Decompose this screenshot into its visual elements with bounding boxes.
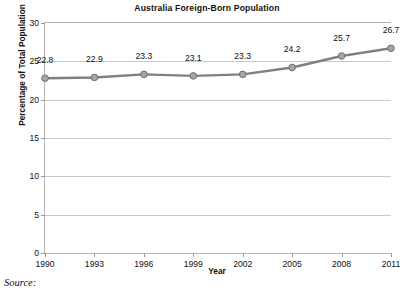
- x-axis-tick: [342, 253, 343, 257]
- page-title: Australia Foreign-Born Population: [0, 3, 414, 13]
- data-point-label: 26.7: [371, 25, 411, 35]
- x-axis-tick: [144, 253, 145, 257]
- data-point-marker: [42, 75, 49, 82]
- data-point-label: 23.3: [124, 51, 164, 61]
- data-point-label: 24.2: [272, 44, 312, 54]
- chart-figure: Australia Foreign-Born Population Percen…: [0, 0, 414, 296]
- y-axis-tick-label: 15: [29, 133, 39, 143]
- x-axis-tick: [292, 253, 293, 257]
- y-axis-tick-label: 5: [34, 210, 39, 220]
- data-point-marker: [239, 71, 246, 78]
- y-axis-tick-label: 0: [34, 248, 39, 258]
- plot-area: 051015202530 199019931996199920022005200…: [44, 22, 391, 254]
- data-point-marker: [338, 53, 345, 60]
- x-axis-tick: [45, 253, 46, 257]
- data-point-label: 22.9: [74, 54, 114, 64]
- data-point-label: 22.8: [25, 55, 65, 65]
- y-axis-tick-label: 30: [29, 18, 39, 28]
- data-point-marker: [289, 64, 296, 71]
- data-point-marker: [141, 71, 148, 78]
- data-point-marker: [388, 45, 395, 52]
- x-axis-title: Year: [44, 266, 390, 276]
- y-axis-tick-label: 20: [29, 95, 39, 105]
- x-axis-tick: [94, 253, 95, 257]
- x-axis-tick: [243, 253, 244, 257]
- data-point-label: 25.7: [322, 33, 362, 43]
- data-point-label: 23.3: [223, 51, 263, 61]
- x-axis-tick: [391, 253, 392, 257]
- data-point-marker: [91, 74, 98, 81]
- data-point-label: 23.1: [173, 53, 213, 63]
- data-point-marker: [190, 73, 197, 80]
- y-axis-title: Percentage of Total Population: [15, 0, 29, 163]
- y-axis-tick-label: 10: [29, 171, 39, 181]
- x-axis-tick: [193, 253, 194, 257]
- source-caption: Source:: [4, 277, 36, 288]
